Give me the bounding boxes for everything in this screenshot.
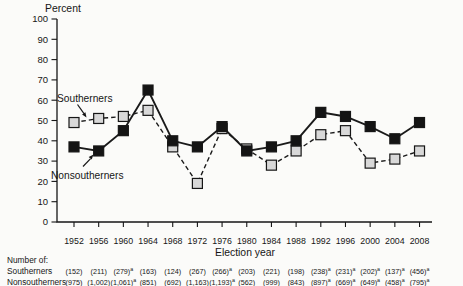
footnote-value: (231)a — [336, 266, 356, 276]
data-point-nonsoutherners-1956 — [94, 146, 104, 156]
footnote-value: (458)a — [385, 277, 405, 286]
line-chart-canvas: Percent 01020304050607080901001952195619… — [0, 0, 463, 286]
footnote-value: (1,193)a — [209, 277, 235, 286]
x-axis-title: Election year — [215, 247, 276, 258]
data-point-southerners-1988 — [291, 146, 301, 156]
footnote-value: (562) — [238, 278, 255, 286]
footnote-value: (221) — [263, 267, 280, 276]
data-point-nonsoutherners-1980 — [242, 146, 252, 156]
footnote-value: (211) — [91, 267, 107, 276]
footnote-value: (137)a — [385, 266, 405, 276]
data-point-southerners-1992 — [316, 130, 326, 140]
data-point-southerners-1956 — [94, 113, 104, 123]
y-tick-label: 40 — [37, 135, 48, 146]
footnote-value: (649)a — [360, 277, 380, 286]
x-tick-label: 1996 — [336, 236, 356, 246]
data-point-southerners-2000 — [365, 158, 375, 168]
data-point-southerners-1984 — [266, 160, 276, 170]
footnote-value: (851) — [140, 278, 157, 286]
y-tick-label: 10 — [37, 196, 48, 207]
x-tick-label: 2008 — [410, 236, 430, 246]
footnote-value: (238)a — [311, 266, 331, 276]
footnote-value: (279)a — [113, 266, 133, 276]
data-point-nonsoutherners-2004 — [390, 134, 400, 144]
x-tick-label: 1956 — [89, 236, 109, 246]
x-tick-label: 1960 — [114, 236, 134, 246]
footnote-value: (456)a — [410, 266, 430, 276]
footnote-value: (1,002) — [87, 278, 110, 286]
footnote-value: (203) — [238, 267, 255, 276]
nonsoutherners-arrow-icon — [83, 155, 94, 167]
data-point-southerners-2004 — [390, 154, 400, 164]
footnote-heading: Number of: — [7, 255, 48, 265]
footnote-value: (795)a — [410, 277, 430, 286]
x-tick-label: 1988 — [286, 236, 306, 246]
footnote-value: (266)a — [212, 266, 232, 276]
x-tick-label: 2000 — [360, 236, 380, 246]
footnote-value: (999) — [263, 278, 280, 286]
footnote-row-label-nonsoutherners: Nonsoutherners — [7, 277, 66, 286]
data-point-nonsoutherners-1988 — [291, 136, 301, 146]
data-point-nonsoutherners-1984 — [266, 142, 276, 152]
data-point-nonsoutherners-1952 — [69, 142, 79, 152]
y-tick-label: 50 — [37, 115, 48, 126]
y-tick-label: 30 — [37, 155, 48, 166]
figure-scan: Percent 01020304050607080901001952195619… — [0, 0, 463, 286]
y-tick-label: 90 — [37, 34, 48, 45]
y-tick-label: 20 — [37, 176, 48, 187]
y-tick-label: 0 — [43, 216, 48, 227]
y-tick-label: 70 — [37, 74, 48, 85]
data-point-southerners-1960 — [118, 111, 128, 121]
footnote-value: (843) — [288, 278, 305, 286]
data-point-southerners-1996 — [340, 126, 350, 136]
data-point-southerners-1964 — [143, 105, 153, 115]
footnote-value: (897)a — [311, 277, 331, 286]
data-point-nonsoutherners-1992 — [316, 107, 326, 117]
axis-lines — [57, 19, 432, 222]
footnote-value: (124) — [164, 267, 181, 276]
footnote-value: (669)a — [336, 277, 356, 286]
southerners-arrow-icon — [78, 105, 87, 118]
data-point-nonsoutherners-1964 — [143, 85, 153, 95]
y-tick-label: 60 — [37, 95, 48, 106]
x-tick-label: 1992 — [311, 236, 331, 246]
y-axis-title: Percent — [45, 3, 81, 14]
x-tick-label: 1980 — [237, 236, 257, 246]
x-tick-label: 1972 — [188, 236, 208, 246]
data-point-southerners-1972 — [192, 178, 202, 188]
footnote-value: (163) — [140, 267, 157, 276]
x-tick-label: 1952 — [64, 236, 84, 246]
footnote-value: (975) — [66, 278, 83, 286]
footnote-value: (1,163) — [186, 278, 209, 286]
data-point-nonsoutherners-1972 — [192, 142, 202, 152]
footnote-value: (202)a — [360, 266, 380, 276]
x-tick-label: 1976 — [212, 236, 232, 246]
data-point-nonsoutherners-2000 — [365, 122, 375, 132]
footnote-value: (692) — [164, 278, 181, 286]
footnote-row-label-southerners: Southerners — [7, 266, 52, 276]
x-tick-label: 1968 — [163, 236, 183, 246]
x-tick-label: 2004 — [385, 236, 405, 246]
data-point-nonsoutherners-1976 — [217, 122, 227, 132]
data-point-nonsoutherners-2008 — [415, 118, 425, 128]
data-point-nonsoutherners-1968 — [168, 136, 178, 146]
x-tick-label: 1984 — [262, 236, 282, 246]
data-point-nonsoutherners-1996 — [340, 111, 350, 121]
footnote-value: (198) — [288, 267, 305, 276]
data-point-nonsoutherners-1960 — [118, 126, 128, 136]
series-label-southerners: Southerners — [57, 93, 113, 104]
footnote-value: (267) — [189, 267, 206, 276]
y-tick-label: 100 — [32, 13, 48, 24]
footnote-values: (152)(211)(279)a(163)(124)(267)(266)a(20… — [66, 266, 430, 286]
footnote-value: (152) — [66, 267, 83, 276]
footnote-value: (1,061)a — [110, 277, 136, 286]
y-tick-label: 80 — [37, 54, 48, 65]
data-point-southerners-2008 — [415, 146, 425, 156]
data-point-southerners-1952 — [69, 118, 79, 128]
series-label-nonsoutherners: Nonsoutherners — [51, 170, 124, 181]
x-tick-label: 1964 — [138, 236, 158, 246]
